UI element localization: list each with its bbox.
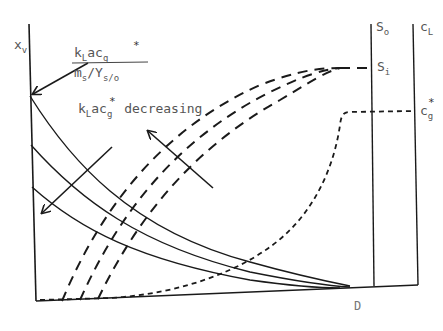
den-slash-y: /Y — [87, 65, 103, 80]
s-o-line — [371, 24, 374, 286]
dec-k: k — [78, 101, 86, 116]
c-l-line — [413, 24, 418, 285]
y-axis-label-main: x — [14, 37, 22, 52]
num-g: g — [103, 53, 108, 63]
dec-g: g — [107, 109, 112, 119]
c-l-label: cL — [420, 20, 433, 33]
diagram-canvas — [0, 0, 443, 331]
s-o-sub: o — [384, 27, 389, 37]
dec-text: decreasing — [124, 101, 202, 116]
num-k-sub: L — [82, 53, 87, 63]
arrow-decreasing-up — [148, 131, 213, 188]
s-i-label: Si — [377, 60, 390, 73]
s-o-main: S — [376, 19, 384, 34]
cg-main: c — [420, 103, 428, 118]
num-star: * — [133, 40, 140, 51]
dec-ac: ac — [91, 101, 107, 116]
y-axis — [29, 24, 36, 301]
c-l-sub: L — [428, 27, 433, 37]
s-i-main: S — [377, 59, 385, 74]
num-ac: ac — [87, 45, 103, 60]
s-i-sub: i — [385, 67, 390, 77]
cg-sub: g — [428, 111, 433, 121]
fraction-numerator: kLacg — [74, 46, 108, 59]
arrow-decreasing-down — [42, 147, 112, 213]
c-l-main: c — [420, 19, 428, 34]
fraction-denominator: ms/Ys/o — [74, 66, 119, 79]
dec-star: * — [109, 96, 116, 107]
den-m-sub: s — [82, 73, 87, 83]
y-axis-label-sub: v — [22, 45, 27, 55]
s-o-label: So — [376, 20, 389, 33]
cg-star: * — [428, 97, 435, 108]
x-axis-label: D — [354, 300, 361, 312]
decreasing-label: kLacg decreasing — [78, 102, 202, 115]
dec-k-sub: L — [86, 109, 91, 119]
den-y-sub: s/o — [103, 73, 119, 83]
num-k: k — [74, 45, 82, 60]
cl-curve — [40, 111, 413, 300]
den-m: m — [74, 65, 82, 80]
y-axis-label: xv — [14, 38, 27, 51]
